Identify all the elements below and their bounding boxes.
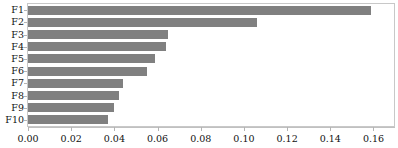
x-tick-mark — [114, 127, 115, 131]
bar-f2 — [28, 18, 257, 27]
x-tick-label-0.14: 0.14 — [320, 134, 341, 144]
bar-f7 — [28, 79, 123, 88]
bar-row — [28, 28, 394, 40]
y-tick-label-f6: F6 — [0, 66, 24, 76]
y-tick-mark — [24, 59, 27, 60]
x-axis-line — [28, 127, 395, 128]
x-tick-label-0.06: 0.06 — [147, 134, 168, 144]
y-tick-mark — [24, 108, 27, 109]
x-tick-label-0.02: 0.02 — [61, 134, 82, 144]
y-tick-label-f2: F2 — [0, 17, 24, 27]
y-tick-label-f5: F5 — [0, 54, 24, 64]
bar-row — [28, 16, 394, 28]
y-tick-label-f9: F9 — [0, 103, 24, 113]
y-tick-label-f1: F1 — [0, 5, 24, 15]
y-tick-mark — [24, 71, 27, 72]
y-tick-mark — [24, 96, 27, 97]
x-tick-label-0.10: 0.10 — [233, 134, 254, 144]
x-tick-mark — [244, 127, 245, 131]
y-tick-mark — [24, 47, 27, 48]
bar-f8 — [28, 91, 119, 100]
x-tick-label-0.16: 0.16 — [363, 134, 384, 144]
y-tick-label-f10: F10 — [0, 115, 24, 125]
bar-f4 — [28, 42, 166, 51]
y-tick-label-f3: F3 — [0, 30, 24, 40]
bar-f1 — [28, 6, 371, 15]
y-tick-label-f8: F8 — [0, 91, 24, 101]
bar-chart: F1F2F3F4F5F6F7F8F9F100.000.020.040.060.0… — [0, 0, 398, 148]
bar-row — [28, 89, 394, 101]
bar-f5 — [28, 54, 155, 63]
x-tick-label-0.12: 0.12 — [277, 134, 298, 144]
y-tick-mark — [24, 35, 27, 36]
x-tick-label-0.04: 0.04 — [104, 134, 125, 144]
y-tick-mark — [24, 83, 27, 84]
y-tick-label-f7: F7 — [0, 78, 24, 88]
x-tick-label-0.00: 0.00 — [17, 134, 38, 144]
x-tick-mark — [373, 127, 374, 131]
bar-f6 — [28, 67, 147, 76]
bar-row — [28, 77, 394, 89]
y-tick-mark — [24, 10, 27, 11]
y-tick-mark — [24, 120, 27, 121]
bar-row — [28, 41, 394, 53]
x-tick-mark — [28, 127, 29, 131]
x-tick-mark — [201, 127, 202, 131]
y-tick-mark — [24, 22, 27, 23]
bar-f3 — [28, 30, 168, 39]
x-tick-mark — [330, 127, 331, 131]
bar-row — [28, 114, 394, 126]
bar-f10 — [28, 115, 108, 124]
x-tick-label-0.08: 0.08 — [190, 134, 211, 144]
bar-row — [28, 4, 394, 16]
bar-row — [28, 102, 394, 114]
bar-row — [28, 65, 394, 77]
x-tick-mark — [71, 127, 72, 131]
bars-area — [28, 4, 394, 126]
x-tick-mark — [158, 127, 159, 131]
bar-f9 — [28, 103, 114, 112]
y-tick-label-f4: F4 — [0, 42, 24, 52]
x-tick-mark — [287, 127, 288, 131]
bar-row — [28, 53, 394, 65]
